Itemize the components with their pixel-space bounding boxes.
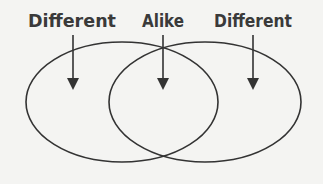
arrow-right	[247, 35, 259, 90]
arrow-middle	[157, 35, 169, 90]
right-ellipse	[109, 42, 301, 162]
arrow-left	[67, 35, 79, 90]
label-alike: Alike	[142, 11, 184, 31]
venn-diagram: Different Alike Different	[0, 0, 323, 184]
label-right-different: Different	[214, 11, 292, 31]
left-ellipse	[26, 42, 218, 162]
label-left-different: Different	[28, 11, 116, 31]
